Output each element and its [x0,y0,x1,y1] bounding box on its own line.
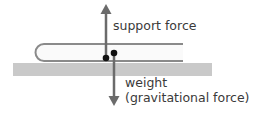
center-of-mass-dot [111,50,118,57]
arrow-up-icon [101,4,112,14]
table-surface [13,63,212,76]
arrow-down-icon [109,96,120,106]
contact-point-dot [103,55,110,62]
weight-label: weight [125,76,167,90]
gravitational-force-label: (gravitational force) [125,91,249,105]
support-force-label: support force [113,19,196,33]
